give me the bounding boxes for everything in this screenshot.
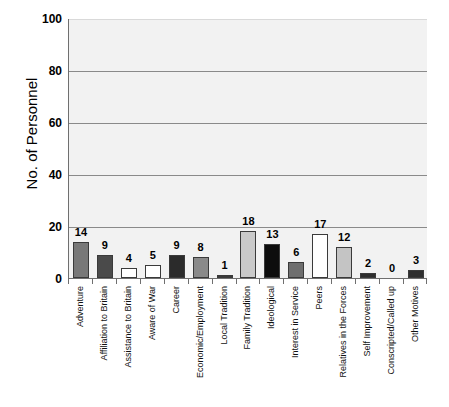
- x-axis-label-slot: Family Tradition: [236, 286, 260, 404]
- bar-group: 0: [380, 19, 404, 278]
- x-axis-label: Affiliation to Britain: [99, 286, 108, 360]
- bar-group: 9: [93, 19, 117, 278]
- x-axis-label: Aware of War: [147, 286, 156, 340]
- x-axis-ticks: [68, 279, 427, 284]
- x-axis-label: Economic/Employment: [195, 286, 204, 378]
- y-tick-label: 100: [28, 13, 62, 25]
- bar-value-label: 6: [293, 247, 299, 258]
- bar: [97, 255, 113, 278]
- bar-value-label: 0: [389, 263, 395, 274]
- x-axis-tick: [236, 279, 237, 284]
- bar-value-label: 5: [150, 250, 156, 261]
- bar: [73, 242, 89, 278]
- bar-value-label: 8: [198, 242, 204, 253]
- x-axis-tick: [259, 279, 260, 284]
- bar: [145, 265, 161, 278]
- x-axis-label-slot: Self Improvement: [355, 286, 379, 404]
- x-axis-label-slot: Conscripted/Called up: [379, 286, 403, 404]
- bar-value-label: 9: [174, 240, 180, 251]
- bar: [288, 262, 304, 278]
- bar-group: 9: [165, 19, 189, 278]
- bars-layer: 14945981181361712203: [69, 19, 427, 278]
- x-axis-label: Local Tradition: [219, 286, 228, 345]
- bar-group: 3: [404, 19, 428, 278]
- x-axis-label-slot: Affiliation to Britain: [92, 286, 116, 404]
- x-axis-label-slot: Economic/Employment: [188, 286, 212, 404]
- bar: [193, 257, 209, 278]
- y-axis-tick-labels: 100 80 60 40 20 0: [24, 0, 62, 407]
- bar-value-label: 2: [365, 258, 371, 269]
- bar: [312, 234, 328, 278]
- x-axis-tick: [379, 279, 380, 284]
- bar-value-label: 4: [126, 253, 132, 264]
- bar-value-label: 14: [75, 227, 87, 238]
- x-axis-tick: [307, 279, 308, 284]
- y-tick-label: 0: [28, 273, 62, 285]
- bar: [408, 270, 424, 278]
- x-axis-label-slot: Adventure: [68, 286, 92, 404]
- bar-group: 8: [189, 19, 213, 278]
- x-axis-tick: [212, 279, 213, 284]
- x-axis-label: Family Tradition: [243, 286, 252, 350]
- bar: [121, 268, 137, 278]
- x-axis-label-slot: Ideological: [259, 286, 283, 404]
- x-axis-label: Peers: [315, 286, 324, 310]
- y-tick-label: 60: [28, 117, 62, 129]
- x-axis-category-labels: AdventureAffiliation to BritainAssistanc…: [68, 286, 427, 404]
- bar-value-label: 3: [413, 255, 419, 266]
- bar-group: 4: [117, 19, 141, 278]
- x-axis-label: Assistance to Britain: [123, 286, 132, 368]
- x-axis-label-slot: Local Tradition: [212, 286, 236, 404]
- y-tick-label: 40: [28, 169, 62, 181]
- y-tick-label: 80: [28, 65, 62, 77]
- bar-value-label: 17: [314, 219, 326, 230]
- bar-group: 18: [237, 19, 261, 278]
- bar-group: 5: [141, 19, 165, 278]
- bar-group: 6: [284, 19, 308, 278]
- bar-group: 14: [69, 19, 93, 278]
- x-axis-tick: [116, 279, 117, 284]
- x-axis-label-slot: Interest in Service: [283, 286, 307, 404]
- bar: [264, 244, 280, 278]
- bar: [169, 255, 185, 278]
- bar-value-label: 18: [242, 216, 254, 227]
- x-axis-tick: [426, 279, 427, 284]
- x-axis-tick: [92, 279, 93, 284]
- x-axis-label: Relatives in the Forces: [339, 286, 348, 378]
- bar-group: 17: [308, 19, 332, 278]
- x-axis-label: Adventure: [75, 286, 84, 327]
- bar-group: 12: [332, 19, 356, 278]
- x-axis-label: Other Motives: [411, 286, 420, 342]
- x-axis-label-slot: Aware of War: [140, 286, 164, 404]
- x-axis-label-slot: Other Motives: [403, 286, 427, 404]
- bar-value-label: 9: [102, 240, 108, 251]
- plot-area: 14945981181361712203: [68, 19, 427, 279]
- bar: [217, 275, 233, 278]
- x-axis-label: Career: [171, 286, 180, 314]
- x-axis-tick: [68, 279, 69, 284]
- x-axis-label-slot: Career: [164, 286, 188, 404]
- bar: [360, 273, 376, 278]
- x-axis-label: Interest in Service: [291, 286, 300, 358]
- bar-chart: No. of Personnel 100 80 60 40 20 0 14945…: [0, 0, 449, 407]
- bar-value-label: 13: [266, 229, 278, 240]
- bar-group: 1: [213, 19, 237, 278]
- x-axis-label-slot: Relatives in the Forces: [331, 286, 355, 404]
- bar-value-label: 1: [221, 260, 227, 271]
- x-axis-label-slot: Peers: [307, 286, 331, 404]
- x-axis-label: Conscripted/Called up: [387, 286, 396, 375]
- x-axis-tick: [283, 279, 284, 284]
- x-axis-tick: [331, 279, 332, 284]
- x-axis-label: Ideological: [267, 286, 276, 329]
- x-axis-tick: [140, 279, 141, 284]
- x-axis-label-slot: Assistance to Britain: [116, 286, 140, 404]
- x-axis-label: Self Improvement: [363, 286, 372, 357]
- bar-group: 2: [356, 19, 380, 278]
- y-tick-label: 20: [28, 221, 62, 233]
- bar-group: 13: [260, 19, 284, 278]
- x-axis-tick: [164, 279, 165, 284]
- bar-value-label: 12: [338, 232, 350, 243]
- x-axis-tick: [355, 279, 356, 284]
- x-axis-tick: [188, 279, 189, 284]
- x-axis-tick: [403, 279, 404, 284]
